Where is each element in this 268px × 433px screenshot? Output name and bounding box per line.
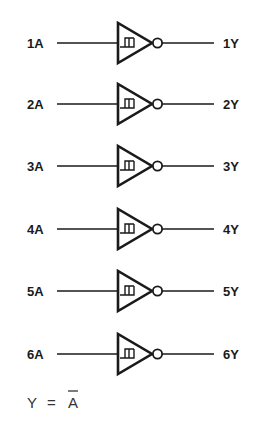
input-label: 2A [27,97,44,112]
input-label: 4A [27,222,44,237]
inverter-triangle-icon [118,334,152,374]
input-label: 1A [27,36,44,51]
equation-rhs: A [68,394,78,411]
hysteresis-icon [120,224,134,233]
logic-equation: Y=A [27,391,78,411]
inversion-bubble-icon [153,349,162,358]
inverter-triangle-icon [118,84,152,124]
inverter-gate-6: 6A6Y [27,334,239,374]
input-label: 5A [27,284,44,299]
equation-operator: = [47,394,56,411]
input-label: 6A [27,347,44,362]
hysteresis-icon [120,99,134,108]
inverter-triangle-icon [118,23,152,63]
hysteresis-icon [120,286,134,295]
inverter-triangle-icon [118,271,152,311]
output-label: 4Y [223,222,239,237]
inverter-triangle-icon [118,209,152,249]
inversion-bubble-icon [153,286,162,295]
inverter-triangle-icon [118,146,152,186]
output-label: 6Y [223,347,239,362]
inversion-bubble-icon [153,224,162,233]
inversion-bubble-icon [153,161,162,170]
hysteresis-icon [120,161,134,170]
hysteresis-icon [120,349,134,358]
input-label: 3A [27,159,44,174]
hysteresis-icon [120,38,134,47]
inverter-gate-1: 1A1Y [27,23,239,63]
output-label: 3Y [223,159,239,174]
equation-lhs: Y [27,394,37,411]
inverter-gate-5: 5A5Y [27,271,239,311]
inverter-gate-4: 4A4Y [27,209,239,249]
inversion-bubble-icon [153,38,162,47]
output-label: 2Y [223,97,239,112]
inversion-bubble-icon [153,99,162,108]
inverter-gate-2: 2A2Y [27,84,239,124]
inverter-gate-3: 3A3Y [27,146,239,186]
output-label: 1Y [223,36,239,51]
logic-diagram: 1A1Y2A2Y3A3Y4A4Y5A5Y6A6YY=A [0,0,268,433]
output-label: 5Y [223,284,239,299]
